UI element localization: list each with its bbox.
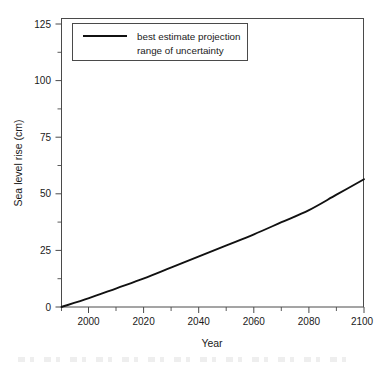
x-axis-title: Year [201, 337, 223, 349]
x-tick-label-2100: 2100 [351, 316, 374, 327]
legend-label-range-of-uncertainty: range of uncertainty [137, 45, 224, 56]
y-tick-label-50: 50 [40, 188, 52, 199]
x-tick-label-2000: 2000 [77, 316, 100, 327]
legend-label-best-estimate-projection: best estimate projection [137, 31, 240, 42]
y-axis-title: Sea level rise (cm) [12, 120, 24, 207]
y-axis-ticks [56, 24, 62, 307]
legend: best estimate projection range of uncert… [73, 24, 248, 61]
x-axis-ticks [62, 307, 365, 313]
y-tick-label-25: 25 [40, 245, 52, 256]
x-tick-label-2060: 2060 [243, 316, 266, 327]
x-tick-label-2040: 2040 [188, 316, 211, 327]
y-tick-label-125: 125 [34, 19, 51, 30]
sea-level-rise-line-chart: 0 25 50 75 100 125 Sea level rise (cm) 2… [0, 0, 390, 366]
x-tick-label-2020: 2020 [132, 316, 155, 327]
sea-level-rise-figure: 0 25 50 75 100 125 Sea level rise (cm) 2… [0, 0, 390, 366]
y-tick-label-75: 75 [40, 132, 52, 143]
series-line-best-estimate-projection [62, 179, 365, 307]
cropped-caption-remnant [18, 357, 348, 362]
x-tick-label-2080: 2080 [298, 316, 321, 327]
y-tick-label-0: 0 [45, 302, 51, 313]
y-tick-label-100: 100 [34, 75, 51, 86]
plot-frame [62, 19, 364, 308]
